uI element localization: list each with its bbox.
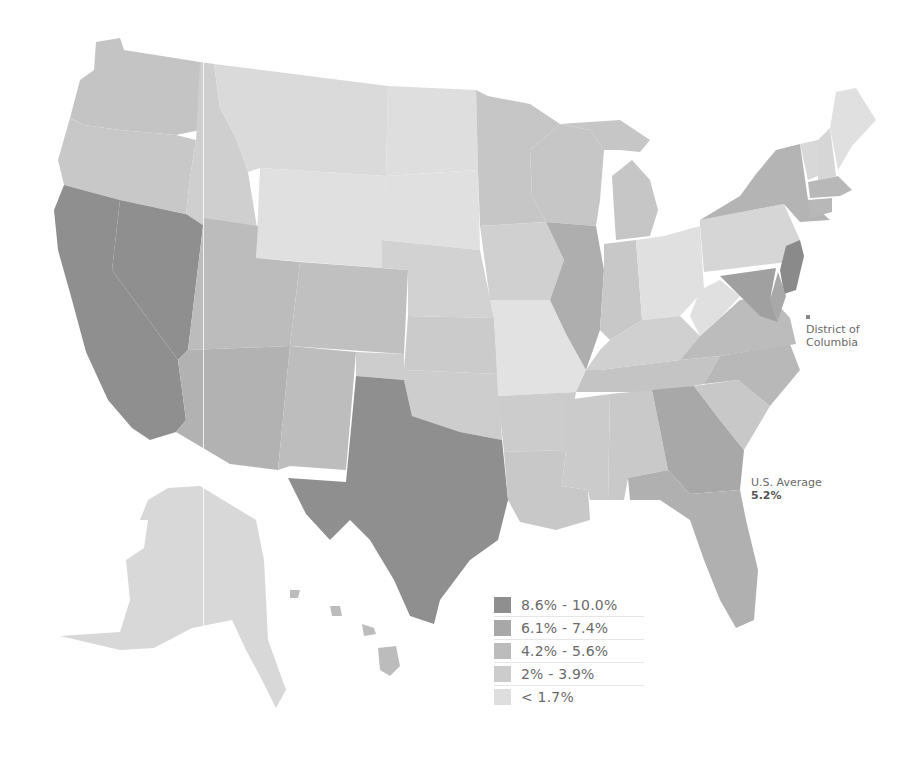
legend-item: 4.2% - 5.6% [494,640,644,663]
map-legend: 8.6% - 10.0% 6.1% - 7.4% 4.2% - 5.6% 2% … [494,594,644,708]
dc-annotation: District of Columbia [806,315,860,349]
state-nd[interactable] [386,86,478,176]
legend-swatch-icon [494,666,511,682]
dc-marker-icon [806,315,810,319]
legend-swatch-icon [494,689,511,705]
legend-swatch-icon [494,597,511,613]
image-seam-line [203,0,204,757]
legend-label: 6.1% - 7.4% [521,620,608,636]
state-ct[interactable] [808,198,832,218]
us-average-value: 5.2% [751,489,822,502]
state-ma[interactable] [808,176,852,198]
dc-label-line1: District of [806,323,860,336]
legend-item: < 1.7% [494,686,644,708]
us-average-annotation: U.S. Average 5.2% [751,476,822,502]
us-average-label: U.S. Average [751,476,822,489]
legend-swatch-icon [494,643,511,659]
state-ia[interactable] [480,222,564,300]
legend-label: < 1.7% [521,689,574,705]
state-sd[interactable] [382,170,480,250]
state-oh[interactable] [636,226,704,320]
legend-swatch-icon [494,620,511,636]
dc-label-line2: Columbia [806,336,858,349]
state-wa[interactable] [70,38,200,135]
state-me[interactable] [830,88,876,170]
state-ak[interactable] [60,486,286,708]
state-ms[interactable] [562,394,610,500]
state-az[interactable] [176,346,290,470]
legend-label: 2% - 3.9% [521,666,595,682]
us-choropleth-map [0,0,910,757]
state-hi[interactable] [290,590,400,676]
state-co[interactable] [290,262,408,354]
state-wy[interactable] [256,168,386,268]
state-ks[interactable] [404,316,498,374]
legend-item: 6.1% - 7.4% [494,617,644,640]
legend-label: 8.6% - 10.0% [521,597,617,613]
state-nm[interactable] [278,346,356,470]
legend-item: 2% - 3.9% [494,663,644,686]
state-ar[interactable] [498,392,576,452]
legend-item: 8.6% - 10.0% [494,594,644,617]
legend-label: 4.2% - 5.6% [521,643,608,659]
